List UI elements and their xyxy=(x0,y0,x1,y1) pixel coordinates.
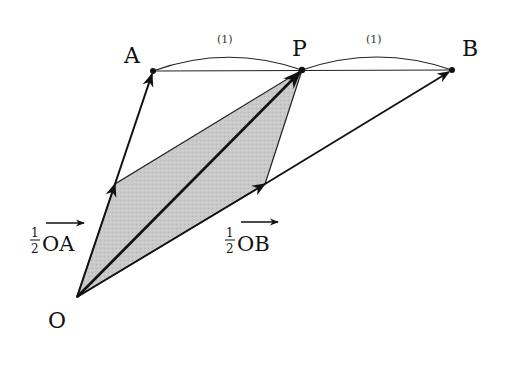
ratio-PB: (1) xyxy=(366,33,382,46)
arc-AP xyxy=(153,57,302,71)
point-P-dot xyxy=(299,67,305,73)
arc-PB xyxy=(302,57,452,70)
svg-text:OA: OA xyxy=(42,232,75,256)
label-O: O xyxy=(48,308,66,333)
point-A-dot xyxy=(150,68,156,74)
svg-text:1: 1 xyxy=(226,226,234,240)
label-A: A xyxy=(123,43,141,68)
label-P: P xyxy=(292,36,307,61)
label-B: B xyxy=(462,36,478,61)
label-half-OA: 1 2 OA xyxy=(30,223,84,256)
vector-diagram: A P B O (1) (1) 1 2 OA 1 2 OB xyxy=(0,0,508,369)
svg-text:2: 2 xyxy=(226,242,234,256)
svg-text:OB: OB xyxy=(237,232,270,256)
label-half-OB: 1 2 OB xyxy=(225,222,278,256)
svg-text:1: 1 xyxy=(31,226,39,240)
ratio-AP: (1) xyxy=(217,33,233,46)
point-B-dot xyxy=(449,67,455,73)
svg-text:2: 2 xyxy=(31,242,39,256)
vector-OP xyxy=(77,72,300,297)
